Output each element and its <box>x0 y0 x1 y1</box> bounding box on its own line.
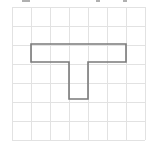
t-shape-outline <box>31 44 126 99</box>
grid-lines <box>12 7 146 141</box>
grid-with-t-shape <box>0 0 154 144</box>
grid-diagram <box>0 0 154 144</box>
